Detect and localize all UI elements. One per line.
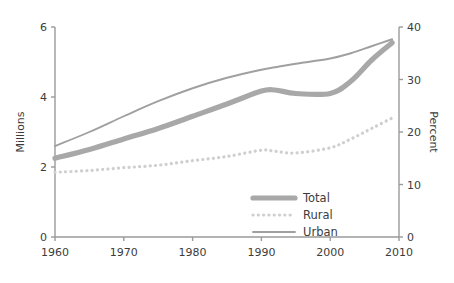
x-axis-tick-label: 2010 [385,246,413,259]
series-line-total [55,43,392,159]
chart-container: 0246010203040196019701980199020002010Mil… [0,0,454,283]
series-line-urban [55,39,392,146]
x-axis-tick-label: 1970 [110,246,138,259]
x-axis-tick-label: 1960 [41,246,69,259]
legend-label-total[interactable]: Total [302,191,330,205]
right-axis-tick-label: 20 [407,126,421,139]
left-axis-tick-label: 2 [40,161,47,174]
legend: TotalRuralUrban [253,191,338,239]
x-axis-tick-label: 2000 [316,246,344,259]
right-axis-tick-label: 30 [407,74,421,87]
right-axis-title: Percent [427,111,440,153]
series-group [55,39,392,172]
right-axis-tick-label: 0 [407,231,414,244]
line-chart: 0246010203040196019701980199020002010Mil… [0,0,454,283]
left-axis-tick-label: 4 [40,91,47,104]
left-axis-title: Millions [14,111,27,152]
x-axis-tick-label: 1980 [179,246,207,259]
right-axis-tick-label: 10 [407,179,421,192]
x-axis-tick-label: 1990 [247,246,275,259]
left-axis-tick-label: 0 [40,231,47,244]
legend-label-rural[interactable]: Rural [303,208,333,222]
right-axis-tick-label: 40 [407,21,421,34]
legend-label-urban[interactable]: Urban [303,225,338,239]
left-axis-tick-label: 6 [40,21,47,34]
